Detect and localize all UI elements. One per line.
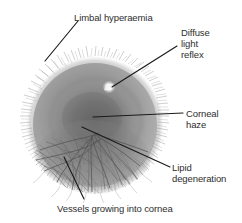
label-lipid-degeneration: Lipid degeneration bbox=[172, 162, 226, 184]
label-vessels-growing-into-cornea: Vessels growing into cornea bbox=[57, 203, 173, 214]
annotated-cornea-figure: Limbal hyperaemia Diffuse light reflex C… bbox=[0, 0, 242, 223]
label-diffuse-light-reflex: Diffuse light reflex bbox=[181, 27, 210, 60]
eye-globe bbox=[20, 46, 169, 203]
label-corneal-haze: Corneal haze bbox=[186, 108, 219, 130]
label-limbal-hyperaemia: Limbal hyperaemia bbox=[74, 12, 153, 23]
